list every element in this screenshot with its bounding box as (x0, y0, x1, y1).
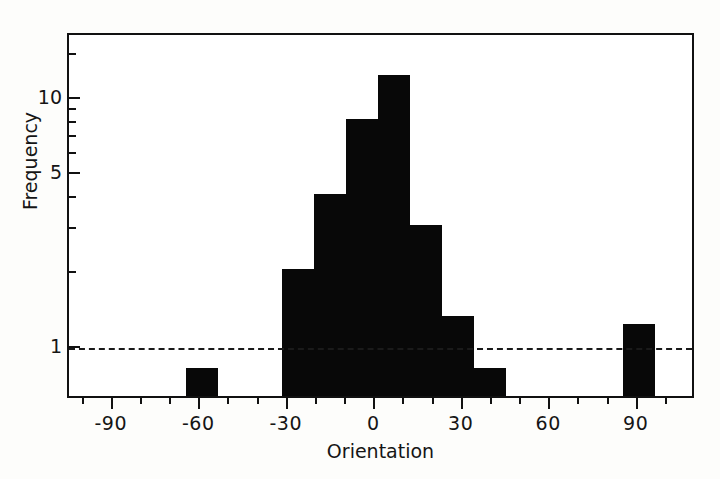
histogram-bar (186, 368, 218, 396)
histogram-bar (282, 269, 314, 396)
histogram-figure: -90-60-300306090 1051 Orientation Freque… (0, 0, 720, 479)
y-tick-label: 1 (50, 335, 62, 357)
y-tick-minor (67, 108, 76, 110)
x-tick-minor (140, 396, 142, 404)
x-tick-minor (344, 396, 346, 404)
x-tick-minor (607, 396, 609, 404)
y-tick-minor (67, 227, 76, 229)
y-tick-major (67, 172, 80, 174)
x-tick-minor (257, 396, 259, 404)
x-axis-ticks (67, 396, 694, 412)
y-axis-title: Frequency (19, 71, 41, 251)
x-tick-minor (227, 396, 229, 404)
y-tick-minor (67, 121, 76, 123)
x-tick-major (286, 396, 288, 409)
x-tick-minor (577, 396, 579, 404)
x-tick-label: 30 (448, 412, 473, 434)
x-tick-major (373, 396, 375, 409)
x-tick-major (111, 396, 113, 409)
x-tick-label: 0 (367, 412, 380, 434)
histogram-bar (346, 119, 378, 396)
histogram-bar (314, 194, 346, 396)
x-tick-label: 60 (536, 412, 561, 434)
x-tick-major (636, 396, 638, 409)
histogram-bar (623, 324, 655, 396)
y-tick-minor (67, 53, 76, 55)
y-axis-ticks (67, 33, 83, 398)
y-tick-label: 10 (38, 86, 62, 108)
x-tick-label: -90 (94, 412, 127, 434)
histogram-bar (442, 316, 474, 396)
x-tick-major (548, 396, 550, 409)
x-tick-minor (169, 396, 171, 404)
x-tick-minor (519, 396, 521, 404)
x-tick-major (461, 396, 463, 409)
y-tick-major (67, 97, 80, 99)
histogram-bar (410, 225, 442, 396)
x-tick-label: -60 (182, 412, 215, 434)
y-tick-minor (67, 135, 76, 137)
x-tick-label: 90 (623, 412, 648, 434)
x-tick-minor (315, 396, 317, 404)
y-tick-label: 5 (50, 161, 62, 183)
x-axis-title: Orientation (67, 440, 694, 462)
x-tick-minor (432, 396, 434, 404)
x-tick-minor (490, 396, 492, 404)
y-tick-minor (67, 271, 76, 273)
x-tick-label: -30 (269, 412, 302, 434)
y-tick-minor (67, 196, 76, 198)
reference-line (69, 348, 692, 350)
x-tick-minor (402, 396, 404, 404)
histogram-bar (474, 368, 506, 396)
y-tick-major (67, 346, 80, 348)
x-tick-minor (665, 396, 667, 404)
y-tick-minor (67, 152, 76, 154)
x-tick-major (198, 396, 200, 409)
plot-area (67, 33, 694, 398)
